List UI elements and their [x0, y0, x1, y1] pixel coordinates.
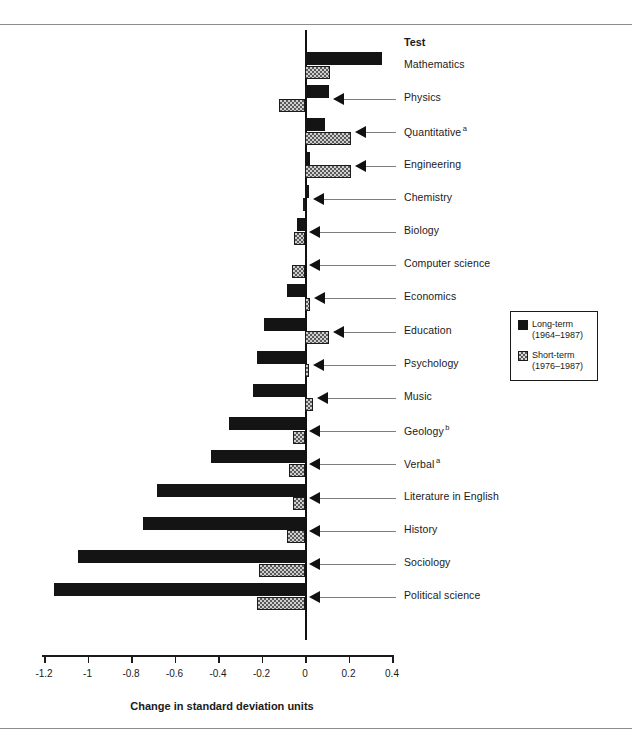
category-label: Chemistry	[404, 191, 452, 203]
bar-short-term	[289, 464, 305, 477]
bar-row: Verbala	[0, 448, 632, 481]
axis-tick-label: -1.2	[24, 668, 64, 679]
axis-tick-label: -0.6	[155, 668, 195, 679]
axis-tick	[392, 655, 394, 663]
bar-short-term	[305, 132, 351, 145]
leader-line	[320, 265, 396, 266]
bar-row: Music	[0, 382, 632, 415]
leader-arrow-icon	[309, 259, 320, 271]
category-label: Music	[404, 390, 432, 402]
leader-line	[366, 132, 396, 133]
leader-line	[325, 298, 396, 299]
leader-line	[344, 99, 396, 100]
x-axis-title: Change in standard deviation units	[42, 700, 402, 712]
leader-arrow-icon	[355, 126, 366, 138]
category-label: Quantitativea	[404, 124, 467, 138]
legend-swatch-short-term	[518, 351, 528, 361]
bottom-divider-rule	[0, 728, 632, 729]
bar-row: Sociology	[0, 548, 632, 581]
bar-short-term	[279, 99, 305, 112]
axis-tick-label: -1	[68, 668, 108, 679]
bar-row: Literature in English	[0, 482, 632, 515]
leader-arrow-icon	[317, 392, 328, 404]
bar-short-term	[294, 232, 305, 245]
category-label: Literature in English	[404, 490, 499, 502]
category-label: Political science	[404, 589, 480, 601]
leader-line	[320, 431, 396, 432]
bar-long-term	[305, 85, 329, 98]
bar-short-term	[293, 431, 305, 444]
axis-tick-label: 0.4	[372, 668, 412, 679]
bar-row: Quantitativea	[0, 116, 632, 149]
leader-arrow-icon	[309, 525, 320, 537]
axis-tick-label: -0.2	[242, 668, 282, 679]
chart-legend: Long-term(1964–1987) Short-term(1976–198…	[510, 311, 598, 381]
category-label: Economics	[404, 290, 456, 302]
bar-short-term	[292, 265, 305, 278]
leader-line	[320, 597, 396, 598]
bar-short-term	[305, 298, 310, 311]
bar-row: Political science	[0, 581, 632, 614]
bar-row: Computer science	[0, 249, 632, 282]
top-divider-rule	[0, 24, 632, 25]
axis-tick	[131, 655, 133, 663]
bar-row: Mathematics	[0, 50, 632, 83]
bar-short-term	[303, 198, 305, 211]
bar-long-term	[143, 517, 305, 530]
axis-tick	[262, 655, 264, 663]
bar-row: Engineering	[0, 150, 632, 183]
leader-line	[320, 564, 396, 565]
leader-line	[366, 166, 396, 167]
leader-line	[324, 365, 396, 366]
bar-short-term	[259, 564, 305, 577]
bar-row: Geologyb	[0, 415, 632, 448]
bar-row: Physics	[0, 83, 632, 116]
axis-tick	[218, 655, 220, 663]
bar-long-term	[305, 152, 310, 165]
bar-long-term	[54, 583, 305, 596]
bar-long-term	[305, 185, 309, 198]
bar-row: Biology	[0, 216, 632, 249]
bar-long-term	[287, 284, 305, 297]
leader-arrow-icon	[313, 193, 324, 205]
bar-long-term	[253, 384, 305, 397]
bar-short-term	[305, 66, 330, 79]
legend-label-long-term: Long-term(1964–1987)	[532, 319, 583, 341]
leader-arrow-icon	[313, 359, 324, 371]
category-label: Engineering	[404, 158, 461, 170]
category-label: Mathematics	[404, 58, 465, 70]
axis-tick	[349, 655, 351, 663]
legend-swatch-long-term	[518, 320, 528, 330]
bar-long-term	[78, 550, 305, 563]
leader-line	[320, 531, 396, 532]
bar-long-term	[229, 417, 305, 430]
leader-arrow-icon	[309, 226, 320, 238]
legend-label-short-term: Short-term(1976–1987)	[532, 350, 583, 372]
leader-arrow-icon	[355, 160, 366, 172]
axis-tick	[175, 655, 177, 663]
bar-row: History	[0, 515, 632, 548]
leader-arrow-icon	[309, 492, 320, 504]
category-label: Psychology	[404, 357, 459, 369]
leader-arrow-icon	[309, 558, 320, 570]
axis-tick	[305, 655, 307, 663]
axis-tick	[88, 655, 90, 663]
leader-line	[320, 232, 396, 233]
bar-short-term	[305, 165, 351, 178]
axis-tick-label: -0.4	[198, 668, 238, 679]
axis-tick-label: -0.8	[111, 668, 151, 679]
bar-short-term	[287, 530, 305, 543]
bar-short-term	[305, 398, 313, 411]
bar-long-term	[157, 484, 305, 497]
leader-line	[344, 332, 396, 333]
leader-arrow-icon	[309, 425, 320, 437]
leader-line	[324, 199, 396, 200]
category-label: Sociology	[404, 556, 450, 568]
category-label: History	[404, 523, 437, 535]
bar-long-term	[305, 52, 382, 65]
category-label: Computer science	[404, 257, 490, 269]
leader-arrow-icon	[333, 326, 344, 338]
leader-arrow-icon	[314, 292, 325, 304]
bar-long-term	[297, 218, 305, 231]
axis-tick-label: 0	[285, 668, 325, 679]
